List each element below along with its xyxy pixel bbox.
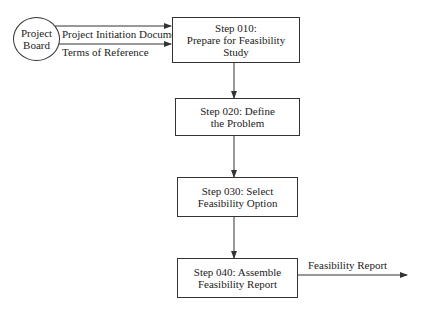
- step-020-line1: Step 020: Define: [200, 105, 275, 117]
- output-label-feasibility-report: Feasibility Report: [308, 259, 387, 271]
- step-040-line1: Step 040: Assemble: [194, 266, 281, 278]
- step-030-line1: Step 030: Select: [198, 185, 278, 197]
- feasibility-study-diagram: Project Board Project Initiation Documen…: [0, 0, 433, 314]
- step-020-box: Step 020: Define the Problem: [175, 98, 300, 136]
- input-label-project-initiation-document: Project Initiation Document: [62, 28, 185, 40]
- step-030-line2: Feasibility Option: [198, 197, 278, 209]
- input-label-terms-of-reference: Terms of Reference: [62, 46, 149, 58]
- step-010-line1: Step 010:: [173, 22, 299, 34]
- entity-label-line1: Project: [21, 27, 52, 39]
- step-040-box: Step 040: Assemble Feasibility Report: [177, 258, 298, 298]
- step-020-line2: the Problem: [200, 117, 275, 129]
- step-040-line2: Feasibility Report: [194, 278, 281, 290]
- project-board-entity: Project Board: [13, 17, 60, 61]
- step-010-box: Step 010: Prepare for Feasibility Study: [172, 17, 300, 63]
- step-030-box: Step 030: Select Feasibility Option: [177, 177, 298, 217]
- step-010-line2: Prepare for Feasibility Study: [173, 34, 299, 58]
- entity-label-line2: Board: [21, 39, 52, 51]
